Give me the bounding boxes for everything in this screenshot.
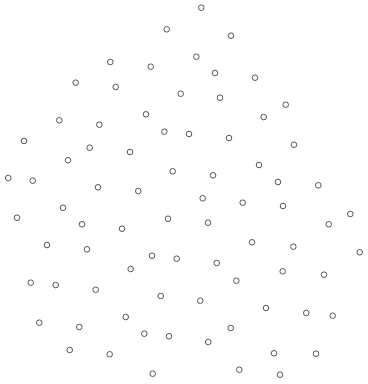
scatter-plot (0, 0, 368, 384)
plot-background (0, 0, 368, 384)
